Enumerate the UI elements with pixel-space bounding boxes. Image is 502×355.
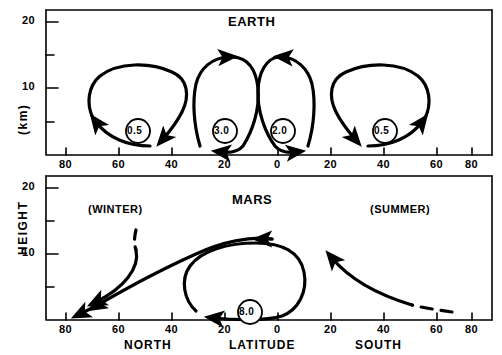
mars-panel-title: MARS — [232, 192, 272, 207]
mars-x-tick-s80: 80 — [465, 323, 478, 335]
mars-x-tick-s20: 20 — [324, 323, 337, 335]
x-axis-north-label: NORTH — [124, 338, 172, 352]
earth-cell-value-polar-north: 0.5 — [127, 125, 142, 136]
mars-cell-value-hadley: 8.0 — [239, 306, 254, 317]
y-axis-units-label: (km) — [16, 104, 30, 135]
mars-y-tick-20: 20 — [22, 180, 35, 192]
earth-x-tick-s60: 60 — [430, 158, 443, 170]
earth-panel-title: EARTH — [228, 14, 275, 29]
mars-x-tick-n20: 20 — [218, 323, 231, 335]
earth-x-tick-s80: 80 — [465, 158, 478, 170]
mars-x-tick-n40: 40 — [165, 323, 178, 335]
earth-cell-value-hadley-south: 2.0 — [272, 125, 287, 136]
earth-cell-value-hadley-north: 3.0 — [214, 125, 229, 136]
earth-x-tick-n20: 20 — [218, 158, 231, 170]
x-axis-south-label: SOUTH — [355, 338, 402, 352]
earth-x-tick-n60: 60 — [112, 158, 125, 170]
earth-cell-value-polar-south: 0.5 — [374, 125, 389, 136]
earth-x-tick-n40: 40 — [165, 158, 178, 170]
mars-summer-annotation: (SUMMER) — [370, 203, 430, 215]
cell-value-circles — [126, 119, 397, 324]
mars-x-tick-n60: 60 — [112, 323, 125, 335]
x-axis-label: LATITUDE — [229, 338, 295, 352]
earth-x-ticks — [66, 148, 472, 155]
y-axis-label: HEIGHT — [16, 201, 30, 255]
earth-y-ticks — [46, 22, 58, 122]
mars-x-tick-s40: 40 — [377, 323, 390, 335]
earth-y-tick-10: 10 — [22, 80, 35, 92]
earth-x-tick-0: 0 — [274, 158, 281, 170]
mars-x-tick-s60: 60 — [430, 323, 443, 335]
earth-x-tick-s40: 40 — [377, 158, 390, 170]
figure-svg — [0, 0, 502, 355]
mars-summer-rising-branch — [332, 258, 452, 312]
earth-y-tick-20: 20 — [22, 14, 35, 26]
mars-x-tick-n80: 80 — [59, 323, 72, 335]
earth-x-tick-s20: 20 — [324, 158, 337, 170]
mars-x-tick-0: 0 — [274, 323, 281, 335]
mars-y-ticks — [46, 188, 58, 287]
mars-winter-descending-branch — [96, 230, 137, 302]
mars-winter-annotation: (WINTER) — [88, 203, 143, 215]
figure-canvas: EARTH MARS (WINTER) (SUMMER) 0.5 3.0 2.0… — [0, 0, 502, 355]
earth-x-tick-n80: 80 — [59, 158, 72, 170]
